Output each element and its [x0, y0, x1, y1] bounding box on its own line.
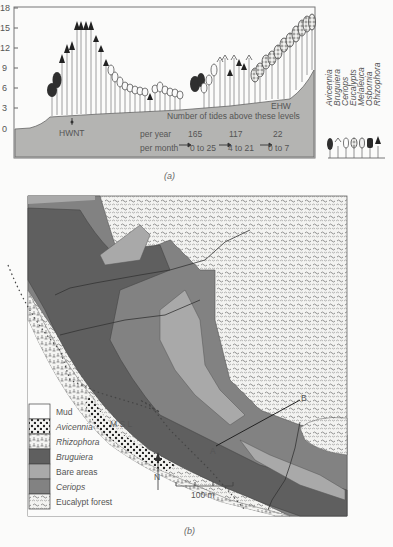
legend-swatch-bare	[29, 464, 50, 479]
figure-a-profile: 18 15 12 9 6 3 0	[0, 0, 393, 190]
tide-year-1: 165	[188, 129, 202, 139]
legend-forest: Eucalypt forest	[56, 497, 113, 507]
eucalypts-icon	[351, 138, 357, 148]
per-year-label: per year	[140, 129, 171, 139]
legend-swatch-rhizophora	[29, 434, 50, 449]
y-tick-18: 18	[0, 3, 10, 13]
msl-label: M S L	[110, 419, 132, 429]
y-tick-12: 12	[0, 43, 10, 53]
north-label: N	[154, 472, 160, 482]
legend-swatch-bruguiera	[29, 449, 50, 464]
legend-swatch-ceriops	[29, 479, 50, 494]
tide-year-2: 117	[229, 129, 243, 139]
legend-bruguiera: Bruguiera	[56, 452, 93, 462]
tide-month-1: 0 to 25	[190, 143, 216, 153]
legend-swatch-avicennia	[29, 419, 50, 434]
tides-title: Number of tides above these levels	[167, 111, 300, 121]
legend-swatch-mud	[29, 404, 50, 419]
legend-mud: Mud	[56, 407, 73, 417]
legend-bare: Bare areas	[56, 467, 98, 477]
point-a-label: A	[210, 446, 216, 456]
species-legend: Avicennia Bruguiera Ceriops Eucalypts Me…	[324, 62, 385, 158]
per-month-label: per month	[140, 143, 179, 153]
caption-b: (b)	[184, 526, 195, 536]
y-tick-3: 3	[2, 103, 7, 113]
ceriops-icon	[344, 138, 349, 148]
legend-rhizophora: Rhizophora	[56, 437, 100, 447]
melaleuca-icon	[360, 138, 365, 148]
y-tick-6: 6	[2, 83, 7, 93]
figure-b-map: M S L A B N 100 m Mud Avicennia Rhizopho…	[0, 190, 393, 547]
y-tick-0: 0	[2, 124, 7, 134]
caption-a: (a)	[164, 171, 175, 181]
scale-label: 100 m	[191, 490, 215, 500]
hwnt-label: HWNT	[59, 128, 85, 138]
y-tick-9: 9	[2, 63, 7, 73]
tide-month-2: 4 to 21	[228, 143, 254, 153]
legend-avicennia: Avicennia	[55, 422, 93, 432]
rhizophora-icon	[375, 136, 381, 144]
legend-swatch-forest	[29, 494, 50, 509]
tide-month-3: 0 to 7	[268, 143, 290, 153]
point-b-label: B	[301, 393, 307, 403]
legend-ceriops: Ceriops	[56, 482, 86, 492]
avicennia-icon	[327, 138, 333, 150]
tide-year-3: 22	[273, 129, 283, 139]
osbornia-icon	[367, 138, 373, 148]
y-tick-15: 15	[0, 23, 10, 33]
bruguiera-icon	[335, 138, 341, 142]
species-rhizophora: Rhizophora	[372, 62, 382, 106]
ehw-label: EHW	[271, 101, 291, 111]
